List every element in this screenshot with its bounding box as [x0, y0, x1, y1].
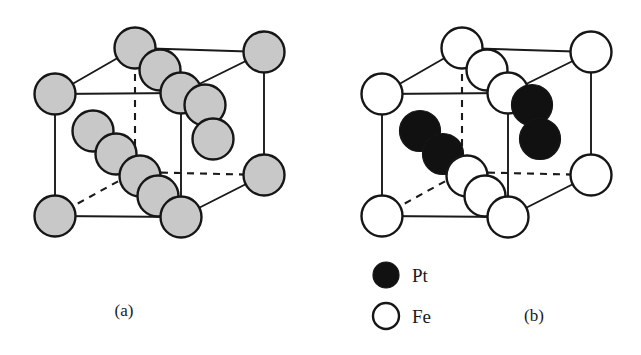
figure-background	[0, 0, 641, 355]
atom-gray-right	[193, 119, 234, 160]
legend-marker-pt-icon	[373, 262, 399, 288]
figure-container: PtFe (a)(b)	[0, 0, 641, 355]
atom-fe-front-top-left	[362, 74, 403, 115]
atom-fe-back-bottom-right	[571, 155, 612, 196]
atom-gray-front-bottom-left	[35, 196, 76, 237]
atom-fe-front-bottom-right	[488, 197, 529, 238]
atom-fe-back-top-right	[571, 32, 612, 73]
atom-pt-right	[520, 119, 561, 160]
atom-fe-front-bottom-left	[362, 196, 403, 237]
legend-marker-fe-icon	[373, 303, 399, 329]
caption-panel-b: (b)	[524, 306, 544, 325]
atom-gray-front-top-left	[35, 74, 76, 115]
crystal-structure-figure: PtFe (a)(b)	[0, 0, 641, 355]
legend-label-pt: Pt	[412, 265, 429, 286]
atom-gray-back-bottom-right	[244, 155, 285, 196]
atom-gray-front-bottom-right	[161, 197, 202, 238]
atom-gray-back-top-right	[244, 32, 285, 73]
legend-label-fe: Fe	[412, 306, 431, 327]
caption-panel-a: (a)	[115, 301, 134, 320]
